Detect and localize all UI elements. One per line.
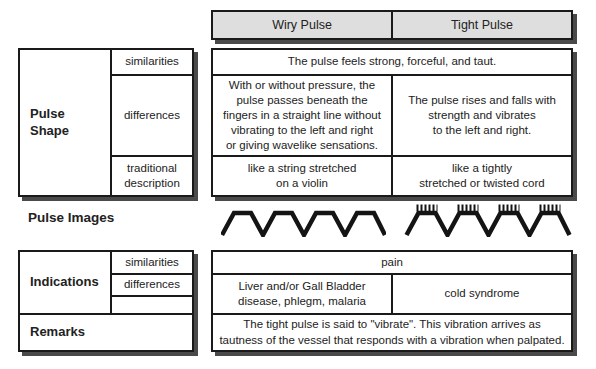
indications-remarks-label-table: Indications similarities differences Rem… [18, 250, 194, 352]
indications-differences-row: Liver and/or Gall Bladder disease, phleg… [213, 275, 571, 315]
tight-pulse-waveform-icon [404, 204, 574, 237]
indications-similarities-cell: pain [213, 252, 571, 275]
pulse-shape-differences-tight-cell: The pulse rises and falls with strength … [393, 76, 571, 155]
pulse-shape-similarities-cell: The pulse feels strong, forceful, and ta… [213, 50, 571, 76]
pulse-shape-differences-wiry-cell: With or without pressure, the pulse pass… [213, 76, 393, 155]
pulse-shape-traditional-wiry-cell: like a string stretched on a violin [213, 157, 393, 195]
indications-differences-label: differences [112, 275, 192, 297]
tight-pulse-header: Tight Pulse [393, 12, 571, 38]
remarks-text-cell: The tight pulse is said to "vibrate". Th… [213, 315, 571, 350]
column-header-bar: Wiry Pulse Tight Pulse [211, 10, 573, 40]
indications-filler-cell [112, 297, 192, 313]
pulse-shape-traditional-tight-cell: like a tightly stretched or twisted cord [393, 157, 571, 195]
pulse-shape-content-table: The pulse feels strong, forceful, and ta… [211, 48, 573, 197]
pulse-shape-traditional-row: like a string stretched on a violin like… [213, 157, 571, 195]
pulse-shape-label-table: Pulse Shape similarities differences tra… [18, 48, 194, 197]
pulse-images-label: Pulse Images [28, 210, 114, 225]
pulse-shape-differences-row: With or without pressure, the pulse pass… [213, 76, 571, 157]
remarks-row-label: Remarks [20, 313, 192, 350]
pulse-comparison-diagram: Wiry Pulse Tight Pulse Pulse Shape simil… [0, 0, 596, 369]
indications-sub-labels: similarities differences [112, 252, 192, 313]
wiry-pulse-waveform-icon [221, 209, 386, 237]
differences-row-label: differences [112, 76, 192, 157]
indications-differences-wiry-cell: Liver and/or Gall Bladder disease, phleg… [213, 275, 393, 313]
indications-remarks-content-table: pain Liver and/or Gall Bladder disease, … [211, 250, 573, 352]
indications-differences-tight-cell: cold syndrome [393, 275, 571, 313]
indications-row-label: Indications [20, 252, 112, 313]
wiry-pulse-header: Wiry Pulse [213, 12, 393, 38]
indications-row: Indications similarities differences [20, 252, 192, 313]
pulse-shape-row-label: Pulse Shape [20, 50, 112, 195]
indications-similarities-label: similarities [112, 252, 192, 275]
similarities-row-label: similarities [112, 50, 192, 76]
traditional-description-row-label: traditional description [112, 157, 192, 195]
pulse-shape-sub-labels: similarities differences traditional des… [112, 50, 192, 195]
